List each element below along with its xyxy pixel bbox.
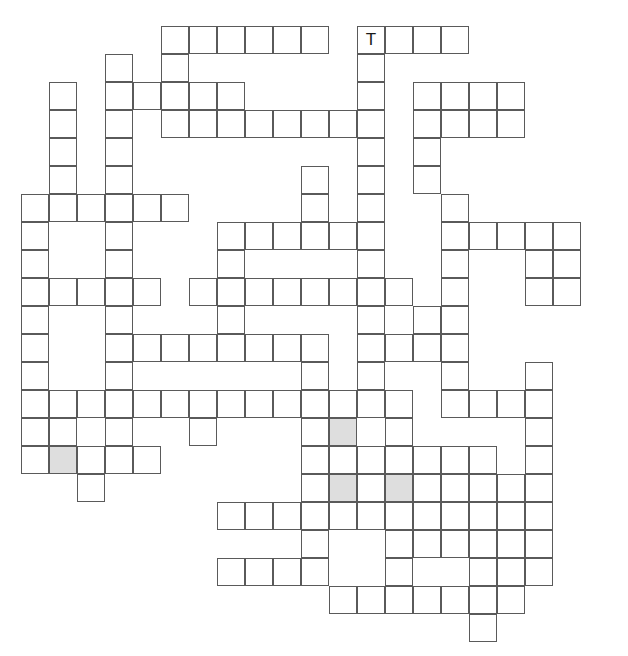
crossword-cell[interactable] [217, 26, 245, 54]
crossword-cell[interactable] [133, 278, 161, 306]
crossword-cell[interactable] [301, 26, 329, 54]
crossword-cell[interactable] [217, 250, 245, 278]
crossword-cell[interactable] [105, 306, 133, 334]
crossword-cell[interactable] [525, 474, 553, 502]
crossword-cell[interactable] [357, 82, 385, 110]
crossword-cell[interactable] [273, 558, 301, 586]
crossword-cell[interactable] [329, 502, 357, 530]
crossword-cell[interactable] [469, 474, 497, 502]
crossword-cell[interactable] [413, 166, 441, 194]
crossword-cell[interactable] [497, 586, 525, 614]
crossword-cell[interactable] [133, 82, 161, 110]
crossword-cell[interactable] [217, 306, 245, 334]
crossword-cell[interactable] [497, 390, 525, 418]
crossword-cell[interactable] [441, 194, 469, 222]
crossword-cell[interactable] [161, 82, 189, 110]
crossword-cell[interactable] [105, 54, 133, 82]
crossword-cell[interactable] [273, 222, 301, 250]
crossword-cell[interactable] [217, 334, 245, 362]
crossword-cell[interactable] [441, 446, 469, 474]
crossword-cell[interactable] [441, 26, 469, 54]
crossword-cell[interactable] [441, 390, 469, 418]
crossword-cell[interactable] [497, 82, 525, 110]
crossword-cell[interactable] [525, 502, 553, 530]
crossword-cell[interactable] [105, 390, 133, 418]
crossword-cell[interactable] [49, 194, 77, 222]
crossword-cell[interactable] [189, 110, 217, 138]
crossword-cell[interactable] [553, 222, 581, 250]
crossword-cell[interactable] [217, 278, 245, 306]
crossword-cell[interactable] [301, 194, 329, 222]
crossword-cell[interactable] [49, 418, 77, 446]
crossword-cell[interactable] [21, 446, 49, 474]
crossword-cell[interactable] [21, 306, 49, 334]
crossword-cell[interactable] [525, 418, 553, 446]
crossword-cell[interactable] [105, 222, 133, 250]
crossword-cell[interactable] [413, 306, 441, 334]
crossword-cell[interactable] [273, 502, 301, 530]
crossword-cell[interactable] [21, 390, 49, 418]
crossword-cell[interactable] [189, 278, 217, 306]
crossword-cell[interactable] [329, 390, 357, 418]
crossword-cell[interactable] [385, 558, 413, 586]
crossword-cell[interactable] [77, 446, 105, 474]
crossword-cell[interactable] [273, 334, 301, 362]
crossword-cell[interactable] [441, 306, 469, 334]
crossword-cell[interactable] [441, 278, 469, 306]
crossword-cell[interactable] [441, 82, 469, 110]
crossword-cell[interactable] [497, 502, 525, 530]
crossword-cell[interactable] [525, 390, 553, 418]
crossword-cell[interactable] [469, 558, 497, 586]
crossword-cell[interactable] [469, 82, 497, 110]
crossword-cell[interactable] [21, 194, 49, 222]
crossword-cell[interactable] [441, 530, 469, 558]
crossword-cell[interactable] [245, 334, 273, 362]
crossword-cell[interactable] [217, 502, 245, 530]
crossword-cell[interactable] [105, 138, 133, 166]
crossword-cell[interactable] [413, 110, 441, 138]
crossword-cell[interactable] [301, 278, 329, 306]
crossword-cell-shaded[interactable] [329, 474, 357, 502]
crossword-cell[interactable] [385, 530, 413, 558]
crossword-grid[interactable]: T [0, 0, 628, 656]
crossword-cell[interactable] [105, 418, 133, 446]
crossword-cell[interactable] [105, 446, 133, 474]
crossword-cell[interactable] [441, 502, 469, 530]
crossword-cell[interactable] [525, 278, 553, 306]
crossword-cell[interactable] [385, 26, 413, 54]
crossword-cell[interactable] [413, 82, 441, 110]
crossword-cell[interactable] [413, 26, 441, 54]
crossword-cell[interactable] [357, 586, 385, 614]
crossword-cell[interactable] [49, 82, 77, 110]
crossword-cell[interactable] [357, 222, 385, 250]
crossword-cell[interactable] [469, 530, 497, 558]
crossword-cell[interactable] [469, 110, 497, 138]
crossword-cell[interactable] [497, 474, 525, 502]
crossword-cell[interactable] [357, 390, 385, 418]
crossword-cell[interactable] [21, 334, 49, 362]
crossword-cell[interactable] [301, 362, 329, 390]
crossword-cell[interactable] [441, 250, 469, 278]
crossword-cell[interactable] [105, 82, 133, 110]
crossword-cell[interactable] [245, 278, 273, 306]
crossword-cell[interactable] [189, 390, 217, 418]
crossword-cell[interactable] [497, 558, 525, 586]
crossword-cell[interactable] [245, 558, 273, 586]
crossword-cell[interactable] [21, 418, 49, 446]
crossword-cell[interactable] [469, 614, 497, 642]
crossword-cell[interactable] [301, 334, 329, 362]
crossword-cell[interactable] [357, 138, 385, 166]
crossword-cell[interactable] [357, 334, 385, 362]
crossword-cell[interactable] [469, 222, 497, 250]
crossword-cell[interactable] [189, 418, 217, 446]
crossword-cell[interactable] [273, 278, 301, 306]
crossword-cell[interactable] [329, 446, 357, 474]
crossword-cell[interactable] [49, 278, 77, 306]
crossword-cell[interactable] [105, 362, 133, 390]
crossword-cell[interactable] [525, 558, 553, 586]
crossword-cell[interactable] [105, 250, 133, 278]
crossword-cell[interactable] [301, 166, 329, 194]
crossword-cell[interactable] [441, 474, 469, 502]
crossword-cell[interactable] [413, 586, 441, 614]
crossword-cell[interactable] [189, 26, 217, 54]
